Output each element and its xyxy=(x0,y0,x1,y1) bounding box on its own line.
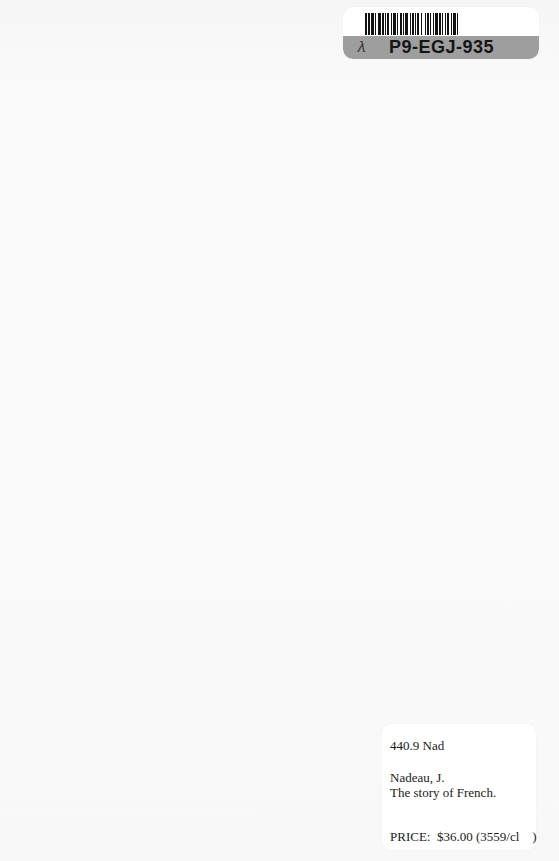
author: Nadeau, J. xyxy=(390,770,445,785)
book-page: 𝜆 P9-EGJ-935 440.9 Nad Nadeau, J. The st… xyxy=(0,0,559,861)
barcode-id: P9-EGJ-935 xyxy=(389,37,494,58)
price-line: PRICE: $36.00 (3559/cl ) xyxy=(390,829,537,844)
barcode-id-band: 𝜆 P9-EGJ-935 xyxy=(343,36,539,59)
book-title: The story of French. xyxy=(390,785,496,800)
handwritten-mark-icon: 𝜆 xyxy=(357,38,365,56)
call-number: 440.9 Nad xyxy=(390,738,444,753)
barcode-sticker: 𝜆 P9-EGJ-935 xyxy=(343,7,539,59)
barcode-icon xyxy=(365,13,521,35)
catalog-label-card: 440.9 Nad Nadeau, J. The story of French… xyxy=(382,724,536,850)
